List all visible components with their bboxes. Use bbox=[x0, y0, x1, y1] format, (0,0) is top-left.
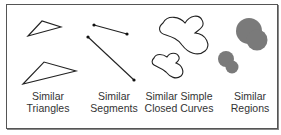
label-line-2: Closed Curves bbox=[139, 103, 219, 115]
label-similar-curves: Similar Simple Closed Curves bbox=[139, 91, 219, 114]
small-region-part bbox=[226, 61, 239, 74]
figure-drawings bbox=[0, 0, 281, 135]
long-segment bbox=[88, 37, 134, 80]
label-line-2: Regions bbox=[210, 103, 281, 115]
short-segment bbox=[94, 25, 127, 34]
segment-endpoint bbox=[125, 32, 128, 35]
similar-triangles-group bbox=[23, 21, 76, 84]
label-line-1: Similar bbox=[210, 91, 281, 103]
label-similar-regions: Similar Regions bbox=[210, 91, 281, 114]
similar-regions-group bbox=[218, 18, 268, 74]
small-closed-curve bbox=[152, 53, 183, 78]
segment-endpoint bbox=[86, 35, 89, 38]
large-triangle bbox=[23, 62, 76, 84]
similar-segments-group bbox=[86, 23, 135, 81]
large-closed-curve bbox=[160, 16, 208, 54]
label-line-1: Similar Simple bbox=[139, 91, 219, 103]
large-region-part bbox=[247, 30, 268, 51]
small-triangle bbox=[28, 21, 61, 36]
segment-endpoint bbox=[132, 78, 135, 81]
similar-curves-group bbox=[152, 16, 208, 78]
segment-endpoint bbox=[92, 23, 95, 26]
